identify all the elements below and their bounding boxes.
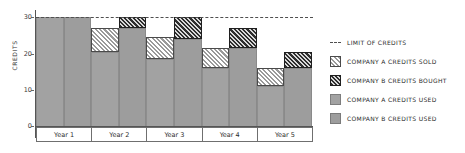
plot-area [36,10,312,126]
bar-company-b [119,17,147,126]
segment-company-b-credits-bought [119,17,147,28]
segment-company-a-credits-sold [146,37,174,59]
legend-item-label: COMPANY A CREDITS USED [347,96,437,103]
bar-group [36,10,91,126]
legend-item: COMPANY A CREDITS SOLD [330,52,465,71]
x-axis-label-2: Year 2 [92,127,147,142]
bar-group [146,10,201,126]
segment-company-b-credits-used [284,68,312,126]
y-tick-mark [31,17,34,18]
bar-company-b [229,28,257,126]
legend-item-label: LIMIT OF CREDITS [347,39,406,46]
y-tick-label: 0 [16,123,32,129]
legend-item-label: COMPANY A CREDITS SOLD [347,58,437,65]
x-axis-labels: Year 1Year 2Year 3Year 4Year 5 [36,127,313,142]
dark-hatch-swatch [330,75,341,86]
segment-company-a-credits-sold [202,48,230,68]
limit-of-credits-line [36,17,313,18]
legend-item: COMPANY B CREDITS USED [330,109,465,128]
bar-company-a [202,48,230,126]
x-axis-label-4: Year 4 [203,127,258,142]
light-hatch-swatch [330,56,341,67]
y-tick-label: 10 [16,87,32,93]
credits-bar-chart: CREDITS 0102030 Year 1Year 2Year 3Year 4… [0,0,465,153]
bar-group [257,10,312,126]
bar-company-a [146,37,174,126]
segment-company-a-credits-sold [257,68,285,86]
x-axis-label-3: Year 3 [147,127,202,142]
legend-item: LIMIT OF CREDITS [330,33,465,52]
segment-company-b-credits-used [64,17,92,126]
limit-line-swatch [330,37,341,48]
light-gray-swatch [330,113,341,124]
legend-item-label: COMPANY B CREDITS BOUGHT [347,77,447,84]
bar-company-a [257,68,285,126]
segment-company-b-credits-bought [174,17,202,39]
bar-company-b [64,17,92,126]
y-axis-ticks: 0102030 [14,0,32,153]
bar-company-a [91,28,119,126]
segment-company-a-credits-used [257,86,285,126]
bar-group [202,10,257,126]
legend-item: COMPANY B CREDITS BOUGHT [330,71,465,90]
segment-company-b-credits-bought [284,52,312,68]
segment-company-b-credits-used [174,39,202,126]
y-tick-label: 30 [16,14,32,20]
gray-swatch [330,94,341,105]
bar-company-b [284,52,312,126]
y-tick-mark [31,126,34,127]
y-tick-label: 20 [16,51,32,57]
x-axis-label-5: Year 5 [258,127,313,142]
bar-company-a [36,17,64,126]
bar-company-b [174,17,202,126]
segment-company-b-credits-used [229,48,257,126]
y-tick-mark [31,90,34,91]
segment-company-b-credits-used [119,28,147,126]
segment-company-b-credits-bought [229,28,257,48]
bar-group [91,10,146,126]
legend-item-label: COMPANY B CREDITS USED [347,115,437,122]
x-axis-label-1: Year 1 [36,127,92,142]
segment-company-a-credits-sold [91,28,119,52]
legend-item: COMPANY A CREDITS USED [330,90,465,109]
segment-company-a-credits-used [36,17,64,126]
segment-company-a-credits-used [146,59,174,126]
y-tick-mark [31,54,34,55]
segment-company-a-credits-used [202,68,230,126]
chart-legend: LIMIT OF CREDITSCOMPANY A CREDITS SOLDCO… [330,33,465,128]
segment-company-a-credits-used [91,52,119,126]
